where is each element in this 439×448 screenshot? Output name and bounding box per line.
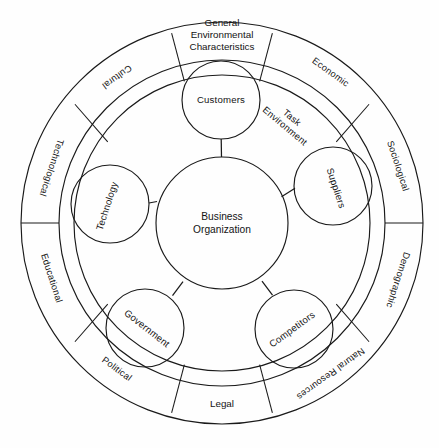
business-organization-label: Business Organization <box>193 211 251 235</box>
segment-label-technological: Technological <box>38 138 66 198</box>
segment-label-general-environmental-characteristics: General Environmental Characteristics <box>190 17 255 52</box>
spoke-suppliers <box>282 188 296 197</box>
diagram-canvas: General Environmental Characteristics Ec… <box>0 0 439 448</box>
ring-divider <box>260 33 273 81</box>
technology-label: Technology <box>94 180 120 231</box>
outer-ring-circle <box>21 22 423 424</box>
segment-label-economic: Economic <box>310 56 351 89</box>
center-line-2: Organization <box>193 224 251 235</box>
segment-label-educational: Educational <box>39 252 64 304</box>
segment-label-legal: Legal <box>210 398 234 409</box>
ring-divider <box>260 365 273 413</box>
ring-divider <box>336 304 369 342</box>
spoke-competitors <box>262 281 273 295</box>
customers-label: Customers <box>197 94 245 105</box>
suppliers-label: Suppliers <box>325 166 348 209</box>
center-line-1: Business <box>201 211 242 222</box>
spoke-government <box>173 282 184 296</box>
gec-line-3: Characteristics <box>190 41 255 52</box>
ring-divider <box>75 104 108 142</box>
task-environment-circle <box>74 75 370 371</box>
ring-divider <box>172 33 185 81</box>
segment-label-cultural: Cultural <box>100 63 133 91</box>
business-organization-circle <box>156 157 288 289</box>
gec-line-1: General <box>205 17 240 28</box>
ring-divider <box>336 104 369 142</box>
spoke-technology <box>149 202 157 204</box>
gec-line-2: Environmental <box>191 29 254 40</box>
ring-divider <box>75 304 108 342</box>
competitors-label: Competitors <box>267 309 317 350</box>
government-label: Government <box>122 307 172 349</box>
ring-outlines <box>21 22 423 424</box>
middle-ring-circle <box>59 60 385 386</box>
segment-label-political: Political <box>100 355 134 383</box>
environment-wheel-diagram: General Environmental Characteristics Ec… <box>0 0 439 448</box>
ring-divider <box>172 365 185 413</box>
segment-label-sociological: Sociological <box>385 139 411 192</box>
